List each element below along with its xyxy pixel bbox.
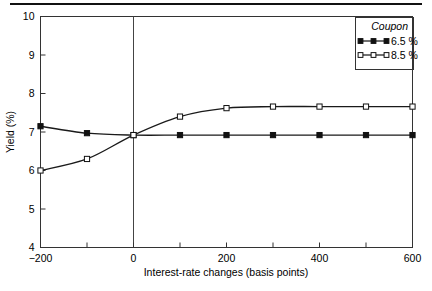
legend-entries: 6.5 %8.5 % xyxy=(358,35,418,61)
data-series-layer xyxy=(38,104,415,173)
y-tick-label: 7 xyxy=(29,126,35,138)
marker-filled-square xyxy=(270,132,275,137)
legend-marker-open-square xyxy=(358,53,363,58)
marker-filled-square xyxy=(38,124,43,129)
series-1 xyxy=(38,124,415,138)
series-line xyxy=(41,106,413,170)
x-tick-label: 0 xyxy=(131,252,137,264)
legend: Coupon 6.5 %8.5 % xyxy=(356,18,418,70)
legend-marker-filled-square xyxy=(371,39,376,44)
marker-open-square xyxy=(177,114,182,119)
marker-open-square xyxy=(224,106,229,111)
y-axis-tick-labels: 45678910 xyxy=(23,10,35,253)
legend-marker-open-square xyxy=(371,53,376,58)
legend-entry-1[interactable]: 6.5 % xyxy=(358,35,418,47)
legend-entry-2[interactable]: 8.5 % xyxy=(358,49,418,61)
marker-open-square xyxy=(38,168,43,173)
x-tick-label: 200 xyxy=(218,252,236,264)
marker-open-square xyxy=(317,104,322,109)
marker-filled-square xyxy=(317,132,322,137)
y-tick-label: 6 xyxy=(29,164,35,176)
y-tick-label: 9 xyxy=(29,49,35,61)
marker-filled-square xyxy=(410,132,415,137)
chart-figure: 45678910 −2000200400600 Interest-rate ch… xyxy=(0,0,432,291)
marker-filled-square xyxy=(84,131,89,136)
marker-open-square xyxy=(84,156,89,161)
marker-filled-square xyxy=(177,132,182,137)
marker-open-square xyxy=(410,104,415,109)
x-tick-label: 400 xyxy=(311,252,329,264)
marker-filled-square xyxy=(363,132,368,137)
legend-marker-filled-square xyxy=(358,39,363,44)
marker-open-square xyxy=(270,104,275,109)
y-tick-label: 5 xyxy=(29,203,35,215)
x-tick-label: 600 xyxy=(404,252,422,264)
legend-marker-filled-square xyxy=(384,39,389,44)
series-2 xyxy=(38,104,415,173)
y-axis-ticks xyxy=(41,17,46,248)
chart-svg: 45678910 −2000200400600 Interest-rate ch… xyxy=(0,0,432,291)
x-axis-ticks xyxy=(41,243,413,248)
marker-filled-square xyxy=(224,132,229,137)
marker-open-square xyxy=(363,104,368,109)
y-axis-title: Yield (%) xyxy=(4,111,16,153)
legend-label: 6.5 % xyxy=(391,35,418,47)
y-tick-label: 10 xyxy=(23,10,35,22)
x-axis-title: Interest-rate changes (basis points) xyxy=(144,266,309,278)
legend-label: 8.5 % xyxy=(391,49,418,61)
x-tick-label: −200 xyxy=(29,252,53,264)
legend-marker-open-square xyxy=(384,53,389,58)
y-tick-label: 8 xyxy=(29,87,35,99)
x-axis-tick-labels: −2000200400600 xyxy=(29,252,422,264)
marker-open-square xyxy=(131,132,136,137)
legend-title: Coupon xyxy=(371,20,408,32)
